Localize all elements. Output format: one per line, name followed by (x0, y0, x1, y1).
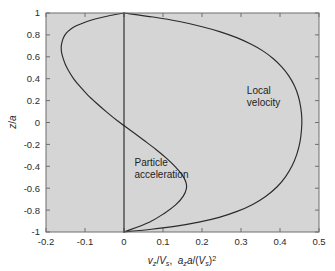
y-tick-label: -0.6 (24, 183, 40, 194)
plot-area-background (46, 13, 319, 232)
y-tick-label: 1 (35, 7, 40, 18)
y-tick-label: 0.2 (27, 95, 40, 106)
y-tick-label: 0.4 (27, 73, 40, 84)
xlabel-exp: 2 (212, 254, 216, 263)
x-tick-label: -0.2 (38, 236, 54, 247)
y-tick-label: 0.6 (27, 51, 40, 62)
annotation-line: Local (247, 85, 271, 96)
annotation-line: acceleration (135, 169, 189, 180)
y-tick-label: -1 (32, 226, 40, 237)
x-tick-label: 0.4 (273, 236, 286, 247)
y-tick-label: -0.8 (24, 205, 40, 216)
y-tick-label: -0.4 (24, 161, 40, 172)
x-tick-label: 0 (121, 236, 126, 247)
x-tick-label: 0.3 (234, 236, 247, 247)
chart-canvas: -0.2-0.100.10.20.30.40.5 -1-0.8-0.6-0.4-… (0, 0, 335, 271)
y-tick-label: -0.2 (24, 139, 40, 150)
figure-container: -0.2-0.100.10.20.30.40.5 -1-0.8-0.6-0.4-… (0, 0, 335, 271)
svg-text:z/a: z/a (7, 115, 18, 130)
x-tick-label: 0.1 (156, 236, 169, 247)
x-tick-label: 0.2 (195, 236, 208, 247)
annotation-line: velocity (247, 97, 280, 108)
annotation-line: Particle (135, 157, 169, 168)
y-axis-title: z/a (7, 115, 18, 130)
y-tick-label: 0 (35, 117, 40, 128)
xlabel-comma: , (169, 255, 177, 266)
x-tick-label: -0.1 (77, 236, 93, 247)
x-tick-label: 0.5 (312, 236, 325, 247)
ylabel-a: a (7, 115, 18, 121)
y-tick-label: 0.8 (27, 29, 40, 40)
